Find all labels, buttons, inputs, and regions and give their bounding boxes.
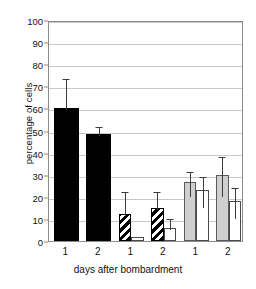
error-bar-cap [122, 192, 129, 193]
y-axis-tick-label: 80 [13, 60, 43, 71]
y-axis-tick-label: 50 [13, 126, 43, 137]
gridline [49, 22, 242, 23]
error-bar [222, 157, 223, 197]
error-bar-cap [167, 219, 174, 220]
x-axis-tick-label: 2 [160, 246, 166, 257]
error-bar-cap [96, 127, 103, 128]
x-axis-tick-label: 2 [95, 246, 101, 257]
x-axis-tick-label: 2 [225, 246, 231, 257]
x-axis-title: days after bombardment [0, 264, 256, 275]
y-axis-tick-label: 60 [13, 104, 43, 115]
error-bar-cap [219, 157, 226, 158]
x-axis-tick-label: 1 [192, 246, 198, 257]
bar [54, 108, 79, 241]
bar-chart-figure: percentage of cells 01020304050607080901… [0, 0, 256, 289]
y-axis-tick-label: 10 [13, 214, 43, 225]
error-bar [66, 79, 67, 110]
error-bar [157, 192, 158, 210]
y-axis-tick-label: 100 [13, 16, 43, 27]
error-bar-cap [187, 172, 194, 173]
y-axis-tick-label: 90 [13, 38, 43, 49]
error-bar-cap [232, 188, 239, 189]
error-bar [203, 177, 204, 208]
error-bar [125, 192, 126, 216]
bar [119, 214, 132, 241]
x-axis-tick-label: 1 [127, 246, 133, 257]
error-bar-cap [200, 177, 207, 178]
error-bar-cap [63, 79, 70, 80]
x-axis-tick-label: 1 [62, 246, 68, 257]
error-bar-cap [154, 192, 161, 193]
y-axis-tick-label: 40 [13, 148, 43, 159]
bar [164, 228, 177, 241]
bar [86, 134, 111, 241]
y-axis-tick-label: 0 [13, 237, 43, 248]
error-bar [235, 188, 236, 219]
y-axis-tick-label: 70 [13, 82, 43, 93]
gridline [49, 44, 242, 45]
error-bar [170, 219, 171, 230]
bar [151, 208, 164, 241]
bar [131, 237, 144, 241]
plot-area [48, 21, 243, 242]
gridline [49, 88, 242, 89]
error-bar [190, 172, 191, 196]
y-axis-tick-label: 30 [13, 170, 43, 181]
y-axis-tick-label: 20 [13, 192, 43, 203]
gridline [49, 66, 242, 67]
error-bar [99, 127, 100, 136]
